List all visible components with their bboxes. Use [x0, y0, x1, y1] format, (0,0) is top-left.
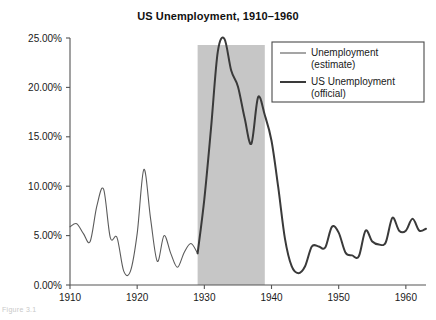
y-axis-tick-label: 15.00% — [28, 131, 62, 142]
legend-label-official: US Unemployment — [311, 76, 395, 87]
x-axis-tick-label: 1920 — [126, 292, 149, 303]
series-line-estimate — [70, 169, 198, 275]
x-axis-tick-label: 1950 — [328, 292, 351, 303]
legend-label-estimate: Unemployment — [311, 47, 378, 58]
y-axis-tick-label: 20.00% — [28, 82, 62, 93]
x-axis-tick-label: 1910 — [59, 292, 82, 303]
legend-sublabel-official: (official) — [311, 88, 346, 99]
y-axis-tick-label: 0.00% — [34, 280, 62, 291]
x-axis-tick-label: 1960 — [395, 292, 418, 303]
y-axis-tick-label: 5.00% — [34, 230, 62, 241]
legend-sublabel-estimate: (estimate) — [311, 59, 355, 70]
y-axis-tick-label: 25.00% — [28, 33, 62, 44]
x-axis-tick-label: 1930 — [193, 292, 216, 303]
x-axis-tick-label: 1940 — [260, 292, 283, 303]
chart-plot-area: 0.00%5.00%10.00%15.00%20.00%25.00%191019… — [0, 0, 436, 320]
unemployment-figure: US Unemployment, 1910–1960 0.00%5.00%10.… — [0, 0, 436, 320]
y-axis-tick-label: 10.00% — [28, 181, 62, 192]
figure-caption: Figure 3.1 — [2, 306, 37, 313]
